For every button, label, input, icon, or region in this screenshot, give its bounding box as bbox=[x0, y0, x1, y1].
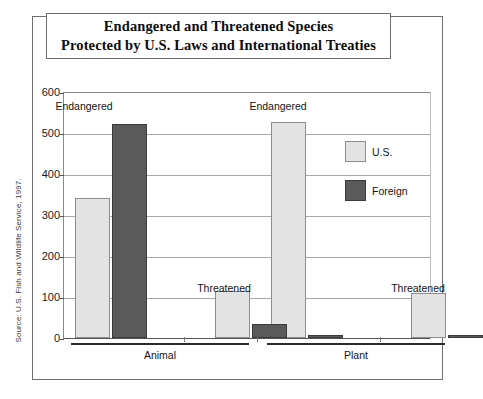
group-label-plant: Plant bbox=[267, 349, 445, 361]
group-rule bbox=[71, 343, 249, 345]
group-axis: AnimalPlant bbox=[63, 343, 429, 373]
legend-item-foreign: Foreign bbox=[345, 180, 408, 201]
series-annotation: Endangered bbox=[55, 100, 112, 112]
category-tick bbox=[184, 337, 185, 342]
legend-label-us: U.S. bbox=[372, 146, 392, 158]
chart-legend: U.S.Foreign bbox=[345, 141, 408, 219]
legend-swatch-us bbox=[345, 141, 366, 162]
legend-item-us: U.S. bbox=[345, 141, 408, 162]
series-annotation: Threatened bbox=[197, 282, 251, 294]
group-label-animal: Animal bbox=[71, 349, 249, 361]
category-tick bbox=[380, 337, 381, 342]
category-tick bbox=[257, 337, 258, 342]
group-rule bbox=[267, 343, 445, 345]
legend-label-foreign: Foreign bbox=[372, 185, 408, 197]
legend-swatch-foreign bbox=[345, 180, 366, 201]
series-annotation: Endangered bbox=[249, 100, 306, 112]
series-annotation: Threatened bbox=[391, 282, 445, 294]
